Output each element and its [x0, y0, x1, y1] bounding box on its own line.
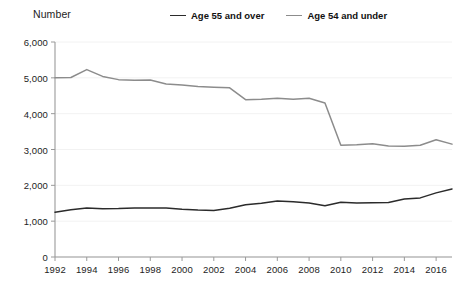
x-tick-label: 1994 [76, 264, 98, 275]
line-chart: Number Age 55 and over Age 54 and under … [0, 0, 461, 288]
x-tick-label: 1996 [108, 264, 130, 275]
x-tick-label: 2016 [425, 264, 447, 275]
x-tick-label: 2014 [394, 264, 416, 275]
x-tick-label: 2008 [298, 264, 320, 275]
x-tick-label: 2000 [171, 264, 193, 275]
x-tick-label: 2012 [362, 264, 384, 275]
x-tick-label: 2002 [203, 264, 225, 275]
x-tick-label: 1992 [44, 264, 66, 275]
x-tick-label: 2006 [267, 264, 289, 275]
x-tick-label: 2010 [330, 264, 352, 275]
x-tick-label: 2004 [235, 264, 257, 275]
x-tick-label: 1998 [139, 264, 161, 275]
x-axis-labels: 1992199419961998200020022004200620082010… [0, 0, 461, 288]
